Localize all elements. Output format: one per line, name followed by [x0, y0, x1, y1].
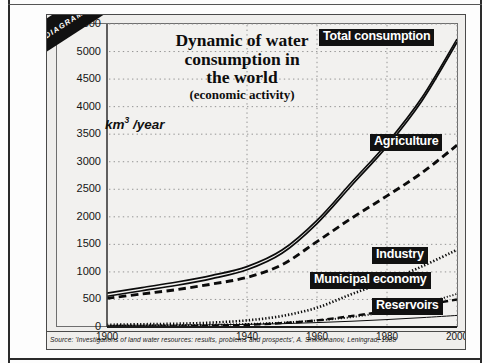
x-tick-label: 1940	[225, 331, 269, 342]
y-tick-label: 1500	[61, 237, 101, 249]
figure-root: DIAGRAM 2.11 Dynamic of water consumptio…	[0, 0, 490, 363]
unit-exponent: 3	[125, 115, 130, 125]
y-tick-label: 3000	[61, 155, 101, 167]
page-rule-right	[480, 0, 482, 363]
y-tick-label: 4500	[61, 72, 101, 84]
y-tick-label: 1000	[61, 265, 101, 277]
y-axis-unit-label: km3 /year	[105, 115, 165, 132]
title-line-2: consumption in	[137, 50, 347, 69]
y-tick-label: 2000	[61, 210, 101, 222]
y-tick-label: 5000	[61, 45, 101, 57]
title-line-3: the world	[137, 68, 347, 87]
unit-prefix: km	[105, 117, 125, 132]
y-tick-label: 3500	[61, 127, 101, 139]
chart-title: Dynamic of water consumption in the worl…	[137, 31, 347, 103]
title-line-4: (economic activity)	[137, 87, 347, 103]
unit-suffix: /year	[133, 117, 165, 132]
chart-panel: DIAGRAM 2.11 Dynamic of water consumptio…	[46, 14, 466, 350]
series-label-total-consumption: Total consumption	[319, 29, 434, 46]
series-label-municipal-economy: Municipal economy	[310, 272, 431, 289]
x-tick-label: 1960	[295, 331, 339, 342]
series-label-industry: Industry	[372, 247, 428, 264]
series-label-agriculture: Agriculture	[370, 134, 442, 151]
x-tick-label: 1900	[85, 331, 129, 342]
page-rule-left	[8, 0, 10, 363]
x-tick-label: 2000	[435, 331, 466, 342]
title-line-1: Dynamic of water	[137, 31, 347, 50]
y-tick-label: 2500	[61, 182, 101, 194]
y-tick-label: 4000	[61, 100, 101, 112]
page-rule-top	[8, 4, 482, 5]
x-tick-label: 1980	[365, 331, 409, 342]
page-rule-bottom	[8, 358, 482, 360]
series-label-reservoirs: Reservoirs	[372, 298, 443, 315]
y-tick-label: 500	[61, 292, 101, 304]
